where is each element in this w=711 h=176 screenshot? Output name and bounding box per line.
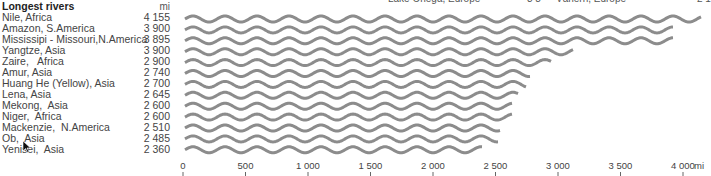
river-wave-bar <box>185 114 512 120</box>
river-wave-bar <box>185 125 500 131</box>
x-axis-tick-label: 1 000 <box>296 160 320 171</box>
river-wave-bar <box>185 27 673 33</box>
river-wave-bar <box>185 16 701 22</box>
river-wave-bar <box>185 38 673 44</box>
x-axis-tick-label: 3 000 <box>546 160 570 171</box>
river-wave-bar <box>185 103 512 109</box>
x-axis-tick-label: 2 500 <box>484 160 508 171</box>
x-axis-tick-label: 0 <box>180 160 185 171</box>
x-axis-tick-label: 500 <box>238 160 254 171</box>
river-wave-bar <box>185 92 518 98</box>
x-axis-labels: 05001 0001 5002 0002 5003 0003 5004 000 <box>0 160 709 174</box>
mouse-cursor-icon <box>22 141 32 153</box>
river-wave-bar <box>185 71 530 77</box>
x-axis-tick-label: 3 500 <box>609 160 633 171</box>
river-wave-bar <box>185 81 526 87</box>
river-wave-bar <box>185 49 573 55</box>
river-wave-bar <box>185 136 498 142</box>
x-axis-tick-label: 2 000 <box>421 160 445 171</box>
x-axis-tick-label: 4 000 <box>671 160 695 171</box>
x-axis-tick-label: 1 500 <box>359 160 383 171</box>
river-wave-bar <box>185 60 551 66</box>
river-wave-bar <box>185 147 482 153</box>
x-axis-unit: mi <box>694 160 704 171</box>
